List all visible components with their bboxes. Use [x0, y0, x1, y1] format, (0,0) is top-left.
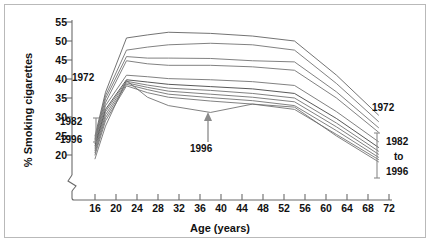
- series-line-1988: [95, 84, 379, 157]
- annotation-marks: [93, 112, 380, 178]
- annotation-left-1996: 1996: [60, 135, 82, 145]
- axes: [66, 20, 392, 200]
- y-tick-label-45: 45: [41, 55, 67, 66]
- series-line-1978: [95, 61, 379, 142]
- y-tick-label-35: 35: [41, 93, 67, 104]
- annotation-middle-1996: 1996: [190, 144, 212, 154]
- annotation-right-1972: 1972: [372, 103, 394, 113]
- y-tick-label-50: 50: [41, 36, 67, 47]
- y-axis-title: % Smoking cigarettes: [22, 30, 34, 190]
- y-tick-label-55: 55: [41, 17, 67, 28]
- annotation-right-to: to: [394, 152, 403, 162]
- annotation-right-1996: 1996: [386, 167, 408, 177]
- series-line-1976: [95, 57, 379, 140]
- series-line-1972: [95, 32, 379, 136]
- annotation-left-1982: 1982: [60, 117, 82, 127]
- annotation-left-1972: 1972: [72, 73, 94, 83]
- x-tick-label-72: 72: [377, 203, 401, 214]
- series-line-1982: [95, 80, 379, 148]
- y-tick-label-40: 40: [41, 74, 67, 85]
- data-series-layer: [95, 32, 379, 162]
- x-axis-title: Age (years): [150, 222, 290, 234]
- y-tick-label-20: 20: [41, 150, 67, 161]
- smoking-by-age-chart: % Smoking cigarettes Age (years) 55 50 4…: [0, 0, 432, 244]
- annotation-right-1982: 1982: [386, 137, 408, 147]
